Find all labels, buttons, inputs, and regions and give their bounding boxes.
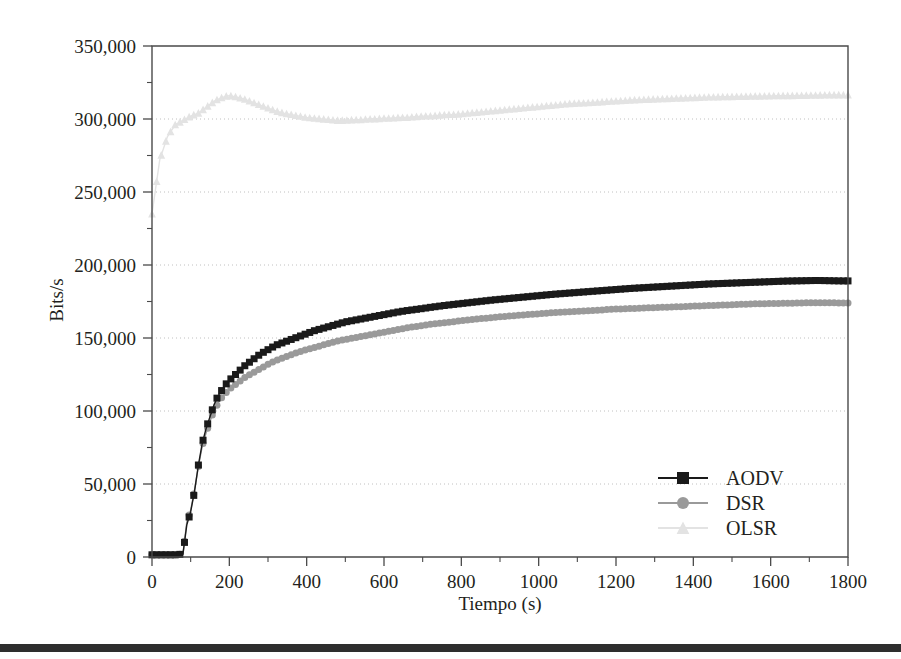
y-axis-title: Bits/s: [46, 278, 67, 321]
data-marker: [190, 492, 197, 499]
data-marker: [186, 513, 193, 520]
page-edge-bar: [0, 644, 901, 652]
y-tick-label: 50,000: [84, 474, 136, 495]
y-tick-label: 150,000: [74, 328, 136, 349]
legend-label: OLSR: [726, 517, 778, 539]
legend-item-olsr: OLSR: [658, 517, 778, 539]
series-olsr: [148, 91, 852, 218]
legend-item-dsr: DSR: [658, 492, 766, 514]
x-tick-label: 1600: [752, 571, 790, 592]
legend-item-aodv: AODV: [658, 467, 784, 489]
y-tick-label: 200,000: [74, 255, 136, 276]
data-marker: [213, 395, 220, 402]
y-tick-label: 300,000: [74, 109, 136, 130]
x-tick-label: 400: [292, 571, 321, 592]
x-axis-title: Tiempo (s): [458, 593, 541, 615]
data-marker: [677, 497, 689, 509]
chart-legend: AODVDSROLSR: [658, 467, 784, 539]
data-marker: [153, 177, 161, 185]
x-tick-label: 800: [447, 571, 476, 592]
data-marker: [162, 137, 170, 145]
y-tick-label: 0: [127, 547, 137, 568]
data-marker: [195, 462, 202, 469]
line-chart: 050,000100,000150,000200,000250,000300,0…: [0, 0, 901, 640]
x-tick-label: 1400: [674, 571, 712, 592]
x-tick-label: 1000: [520, 571, 558, 592]
data-marker: [218, 387, 225, 394]
y-tick-label: 100,000: [74, 401, 136, 422]
y-tick-label: 250,000: [74, 182, 136, 203]
data-marker: [181, 539, 188, 546]
legend-label: AODV: [726, 467, 784, 489]
data-marker: [200, 437, 207, 444]
x-tick-label: 600: [370, 571, 399, 592]
x-tick-label: 1200: [597, 571, 635, 592]
data-marker: [677, 472, 689, 484]
data-marker: [204, 420, 211, 427]
figure-container: 050,000100,000150,000200,000250,000300,0…: [0, 0, 901, 659]
x-tick-label: 0: [147, 571, 157, 592]
x-tick-label: 200: [215, 571, 244, 592]
data-marker: [209, 406, 216, 413]
y-tick-label: 350,000: [74, 36, 136, 57]
data-marker: [157, 151, 165, 159]
x-tick-label: 1800: [829, 571, 867, 592]
legend-label: DSR: [726, 492, 766, 514]
